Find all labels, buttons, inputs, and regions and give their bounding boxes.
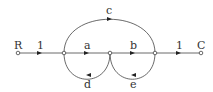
signal-flow-graph: R C 1 a b 1 c d e — [0, 0, 213, 92]
branch-c-arc — [64, 19, 155, 53]
arrow-icon — [107, 17, 112, 21]
arrow-icon — [131, 73, 136, 77]
gain-label-b: b — [130, 39, 137, 52]
node-3 — [153, 51, 157, 55]
node-1 — [62, 51, 66, 55]
arrow-icon — [86, 73, 91, 77]
gain-label-e: e — [130, 78, 137, 91]
gain-label-1: 1 — [37, 39, 44, 52]
node-2 — [108, 51, 112, 55]
gain-label-a: a — [84, 39, 91, 52]
gain-label-c: c — [106, 4, 112, 17]
gain-label-1-out: 1 — [176, 39, 183, 52]
gain-label-d: d — [84, 78, 91, 91]
node-label-R: R — [14, 39, 23, 52]
node-label-C: C — [197, 39, 205, 52]
